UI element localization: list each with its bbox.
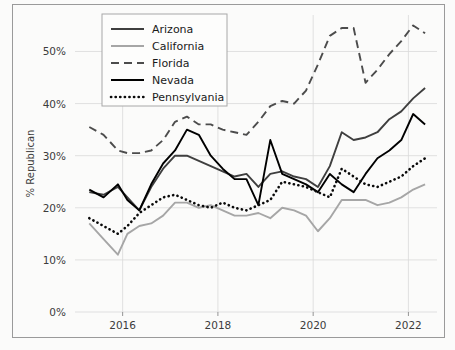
y-tick-label: 30% <box>43 150 66 162</box>
legend-label-pennsylvania: Pennsylvania <box>152 91 224 104</box>
legend-label-nevada: Nevada <box>152 74 194 87</box>
x-tick-label: 2020 <box>300 319 327 331</box>
series-line-nevada <box>89 114 425 210</box>
y-tick-label: 20% <box>43 202 66 214</box>
x-tick-label: 2022 <box>395 319 422 331</box>
x-tick-label: 2016 <box>109 319 136 331</box>
legend-label-california: California <box>152 40 204 53</box>
legend-label-arizona: Arizona <box>152 23 193 36</box>
series-line-pennsylvania <box>89 158 425 234</box>
chart-legend: ArizonaCaliforniaFloridaNevadaPennsylvan… <box>102 14 227 106</box>
x-axis-ticks: 2016201820202022 <box>109 312 422 331</box>
y-axis-ticks: 0%10%20%30%40%50% <box>43 45 66 318</box>
y-axis-label: % Republican <box>25 130 36 198</box>
y-tick-label: 10% <box>43 254 66 266</box>
series-line-california <box>89 184 425 254</box>
chart-figure: 0%10%20%30%40%50% 2016201820202022 % Rep… <box>0 0 455 350</box>
legend-label-florida: Florida <box>152 57 189 70</box>
y-tick-label: 40% <box>43 98 66 110</box>
line-chart: 0%10%20%30%40%50% 2016201820202022 % Rep… <box>0 0 455 350</box>
y-tick-label: 0% <box>49 306 66 318</box>
x-tick-label: 2018 <box>205 319 232 331</box>
y-tick-label: 50% <box>43 45 66 57</box>
